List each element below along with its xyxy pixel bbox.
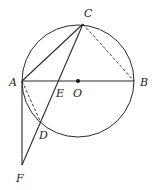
label-o: O [73, 87, 82, 100]
geometry-diagram: A B C O E D F [0, 0, 155, 190]
label-c: C [84, 7, 93, 20]
label-e: E [55, 87, 64, 100]
segment-ac [22, 24, 83, 81]
segment-ad [22, 81, 41, 123]
label-f: F [15, 172, 24, 185]
center-point-o [76, 79, 80, 83]
label-b: B [139, 76, 148, 89]
label-d: D [38, 129, 48, 142]
label-a: A [8, 76, 17, 89]
